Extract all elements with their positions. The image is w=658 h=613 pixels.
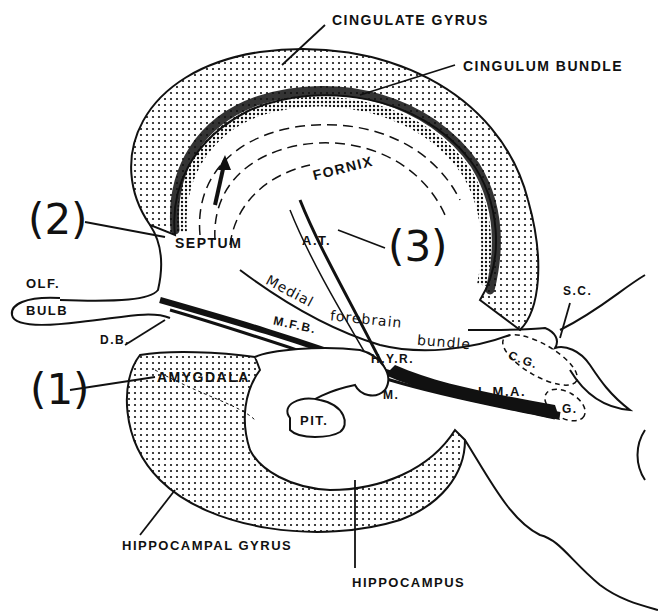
callout-2: (2) [28,195,88,244]
label-hippocampus: HIPPOCAMPUS [352,575,465,590]
label-olf: OLF. [26,276,60,291]
label-mammillary: M. [383,388,399,402]
pons-outline [465,440,658,610]
lma-band [385,365,560,420]
callout-3: (3) [388,222,448,271]
limbic-diagram: CINGULATE GYRUS CINGULUM BUNDLE FORNIX S… [0,0,658,613]
callout-1: (1) [30,365,90,414]
label-diagonal-band: D.B. [100,333,130,347]
label-septum: SEPTUM [175,235,242,251]
label-cingulum-bundle: CINGULUM BUNDLE [463,58,623,74]
label-cingulate-gyrus: CINGULATE GYRUS [332,12,489,28]
label-pituitary: PIT. [300,413,328,428]
label-anterior-thalamus: A.T. [302,233,331,248]
label-amygdala: AMYGDALA [157,369,250,385]
label-bulb: BULB [26,303,68,318]
label-hippocampal-gyrus: HIPPOCAMPAL GYRUS [122,538,292,553]
label-g: G. [562,402,578,416]
spinal-outline [638,430,646,480]
label-hypothalamus: H.Y.R. [371,352,414,366]
diagram-drawing [0,0,658,613]
label-lma: L.M.A. [478,384,526,399]
label-superior-colliculus: S.C. [563,284,592,298]
